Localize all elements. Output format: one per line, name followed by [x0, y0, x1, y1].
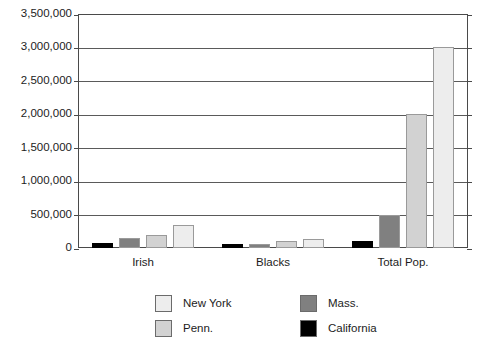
legend-row: New YorkMass.: [155, 291, 445, 316]
y-axis-tick-label: 3,000,000: [21, 42, 72, 54]
bar-group: [338, 14, 468, 248]
bar-groups: [78, 14, 468, 248]
x-axis-category-label: Irish: [78, 253, 208, 271]
axis-tick: [74, 249, 79, 250]
bar[interactable]: [433, 47, 454, 248]
bar[interactable]: [379, 215, 400, 248]
legend-swatch-icon: [155, 320, 172, 337]
y-axis-tick-label: 0: [66, 242, 72, 254]
bar[interactable]: [406, 114, 427, 248]
bar-group-bars: [208, 14, 338, 248]
legend-swatch-icon: [300, 320, 317, 337]
legend-row: Penn.California: [155, 316, 445, 341]
legend-item-california[interactable]: California: [300, 320, 445, 337]
chart-legend: New YorkMass.Penn.California: [155, 291, 445, 341]
bar-group: [208, 14, 338, 248]
x-axis-labels: IrishBlacksTotal Pop.: [78, 253, 468, 271]
legend-item-mass[interactable]: Mass.: [300, 295, 445, 312]
bar-group-bars: [338, 14, 468, 248]
legend-label: New York: [183, 298, 232, 310]
legend-swatch-icon: [300, 295, 317, 312]
y-axis-tick-label: 2,000,000: [21, 109, 72, 121]
bar-group: [78, 14, 208, 248]
bar[interactable]: [303, 239, 324, 248]
bar[interactable]: [249, 244, 270, 248]
y-axis-labels: 0500,0001,000,0001,500,0002,000,0002,500…: [0, 14, 72, 248]
y-axis-tick-label: 1,500,000: [21, 142, 72, 154]
bar[interactable]: [222, 244, 243, 248]
legend-label: Penn.: [183, 323, 213, 335]
bar[interactable]: [119, 238, 140, 248]
y-axis-tick-label: 2,500,000: [21, 75, 72, 87]
legend-item-new-york[interactable]: New York: [155, 295, 300, 312]
bar[interactable]: [173, 225, 194, 248]
legend-label: Mass.: [328, 298, 359, 310]
bar-group-bars: [78, 14, 208, 248]
y-axis-tick-label: 3,500,000: [21, 8, 72, 20]
bar[interactable]: [146, 235, 167, 248]
x-axis-category-label: Total Pop.: [338, 253, 468, 271]
bar-chart: 0500,0001,000,0001,500,0002,000,0002,500…: [0, 0, 493, 361]
legend-item-penn[interactable]: Penn.: [155, 320, 300, 337]
legend-swatch-icon: [155, 295, 172, 312]
bar[interactable]: [352, 241, 373, 248]
x-axis-category-label: Blacks: [208, 253, 338, 271]
legend-label: California: [328, 323, 377, 335]
y-axis-tick-label: 500,000: [30, 209, 72, 221]
axis-tick: [467, 249, 472, 250]
plot-area: [78, 14, 468, 248]
y-axis-tick-label: 1,000,000: [21, 175, 72, 187]
bar[interactable]: [276, 241, 297, 248]
bar[interactable]: [92, 243, 113, 248]
